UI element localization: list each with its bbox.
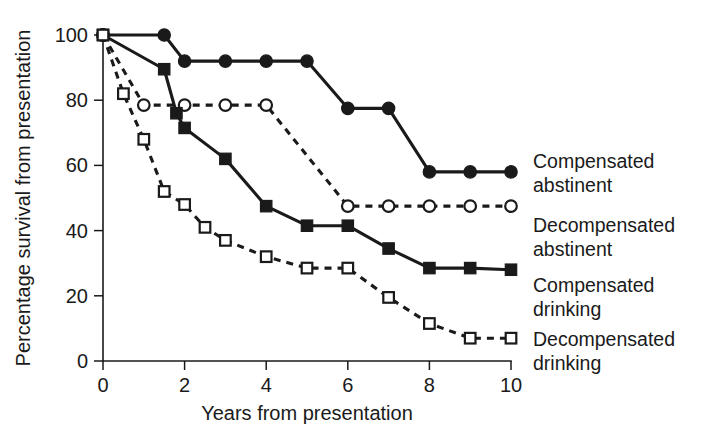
series-label-line1: Compensated [533, 274, 654, 296]
data-point-filled-circle [464, 166, 476, 178]
series-label-line2: abstinent [533, 174, 613, 196]
data-point-open-circle [260, 99, 272, 111]
data-point-open-circle [464, 200, 476, 212]
data-point-open-square [159, 186, 170, 197]
x-axis-ticks: 0246810 [97, 361, 522, 396]
data-point-open-square [506, 333, 517, 344]
data-point-open-square [261, 251, 272, 262]
data-point-filled-circle [219, 55, 231, 67]
series-label-line1: Decompensated [533, 214, 675, 236]
data-point-filled-circle [423, 166, 435, 178]
series-layer [97, 29, 517, 344]
x-tick-label: 6 [342, 374, 353, 396]
y-tick-label: 100 [55, 24, 88, 46]
data-point-filled-square [220, 153, 231, 164]
data-point-open-square [465, 333, 476, 344]
y-tick-label: 20 [66, 285, 88, 307]
data-point-filled-square [261, 200, 272, 211]
data-point-open-square [118, 88, 129, 99]
series-label-line2: drinking [533, 352, 601, 374]
x-tick-label: 0 [97, 374, 108, 396]
data-point-open-circle [383, 200, 395, 212]
y-tick-label: 0 [77, 350, 88, 372]
data-point-open-square [139, 134, 150, 145]
data-point-filled-circle [260, 55, 272, 67]
data-point-filled-circle [158, 29, 170, 41]
x-tick-label: 10 [500, 374, 522, 396]
data-point-filled-circle [301, 55, 313, 67]
data-point-open-square [383, 292, 394, 303]
data-point-filled-square [383, 243, 394, 254]
data-point-filled-circle [382, 102, 394, 114]
data-point-open-circle [424, 200, 436, 212]
data-point-open-square [179, 199, 190, 210]
series-label-line2: drinking [533, 298, 601, 320]
y-tick-label: 80 [66, 89, 88, 111]
data-point-open-square [200, 222, 211, 233]
data-point-open-square [424, 318, 435, 329]
y-tick-label: 40 [66, 220, 88, 242]
data-point-filled-square [301, 220, 312, 231]
survival-chart: 020406080100 0246810 Compensatedabstinen… [0, 0, 715, 442]
y-tick-label: 60 [66, 154, 88, 176]
series-label-line1: Decompensated [533, 328, 675, 350]
x-tick-label: 4 [261, 374, 272, 396]
series-labels: CompensatedabstinentDecompensatedabstine… [533, 150, 675, 374]
data-point-filled-circle [178, 55, 190, 67]
series-filled-circle [97, 29, 517, 178]
x-axis-title: Years from presentation [201, 402, 413, 424]
x-tick-label: 8 [424, 374, 435, 396]
data-point-filled-square [465, 262, 476, 273]
data-point-open-square [98, 30, 109, 41]
data-point-filled-circle [342, 102, 354, 114]
data-point-filled-square [342, 220, 353, 231]
data-point-open-circle [342, 200, 354, 212]
data-point-filled-square [159, 64, 170, 75]
y-axis-ticks: 020406080100 [55, 24, 103, 372]
y-axis-title: Percentage survival from presentation [12, 30, 34, 367]
series-label-line2: abstinent [533, 238, 613, 260]
data-point-open-square [343, 263, 354, 274]
data-point-open-square [220, 235, 231, 246]
series-open-square [98, 30, 517, 344]
data-point-open-circle [138, 99, 150, 111]
data-point-filled-square [505, 264, 516, 275]
data-point-open-square [302, 263, 313, 274]
data-point-open-circle [220, 99, 232, 111]
data-point-open-circle [505, 200, 517, 212]
x-tick-label: 2 [179, 374, 190, 396]
data-point-filled-circle [505, 166, 517, 178]
data-point-filled-square [424, 262, 435, 273]
chart-canvas: 020406080100 0246810 Compensatedabstinen… [0, 0, 715, 442]
data-point-filled-square [171, 108, 182, 119]
series-label-line1: Compensated [533, 150, 654, 172]
data-point-filled-square [179, 122, 190, 133]
